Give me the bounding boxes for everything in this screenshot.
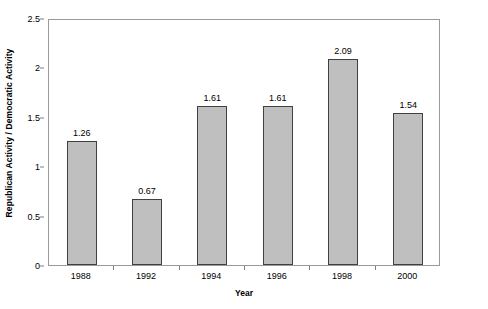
bar-chart: Republican Activity / Democratic Activit… [0, 0, 488, 309]
bar-value-label: 1.61 [204, 93, 222, 103]
bar-value-label: 1.54 [400, 100, 418, 110]
bar-value-label: 1.26 [73, 128, 91, 138]
bar [197, 106, 227, 265]
x-axis-tick-labels: 198819921994199619982000 [48, 271, 440, 285]
y-axis-tick-mark [40, 266, 44, 267]
y-axis-tick-mark [40, 68, 44, 69]
x-axis-tick-label: 1992 [136, 271, 156, 281]
x-axis-tick-mark [375, 266, 376, 270]
x-axis-tick-label: 1988 [71, 271, 91, 281]
x-axis-tick-label: 1998 [332, 271, 352, 281]
plot-area: 1.260.671.611.612.091.54 [48, 19, 440, 266]
x-axis-tick-label: 2000 [397, 271, 417, 281]
bar-group: 1.54 [376, 20, 441, 265]
y-axis-tick-mark [40, 167, 44, 168]
y-axis-tick-mark [40, 19, 44, 20]
bar-group: 0.67 [114, 20, 179, 265]
bar-value-label: 2.09 [334, 46, 352, 56]
x-axis-title: Year [48, 288, 440, 298]
bar [263, 106, 293, 265]
y-axis-tick-label: 1.5 [27, 113, 40, 123]
bar-group: 2.09 [310, 20, 375, 265]
y-axis-tick-mark [40, 216, 44, 217]
bar [132, 199, 162, 265]
y-axis-title-text: Republican Activity / Democratic Activit… [4, 49, 14, 218]
bar [393, 113, 423, 265]
y-axis-tick-label: 0.5 [27, 212, 40, 222]
x-axis-tick-mark [179, 266, 180, 270]
bar-value-label: 0.67 [138, 186, 156, 196]
y-axis-tick-mark [40, 117, 44, 118]
bar [67, 141, 97, 265]
x-axis-tick-mark [113, 266, 114, 270]
bar-group: 1.61 [180, 20, 245, 265]
x-axis-tick-mark [309, 266, 310, 270]
y-axis-title: Republican Activity / Democratic Activit… [0, 0, 18, 266]
y-axis-tick-label: 2.5 [27, 14, 40, 24]
bars-layer: 1.260.671.611.612.091.54 [49, 20, 439, 265]
bar-group: 1.26 [49, 20, 114, 265]
x-axis-tick-label: 1996 [267, 271, 287, 281]
x-axis-tick-label: 1994 [201, 271, 221, 281]
bar-value-label: 1.61 [269, 93, 287, 103]
y-axis-tick-labels: 00.511.522.5 [18, 19, 44, 266]
x-axis-tick-mark [244, 266, 245, 270]
bar [328, 59, 358, 265]
bar-group: 1.61 [245, 20, 310, 265]
